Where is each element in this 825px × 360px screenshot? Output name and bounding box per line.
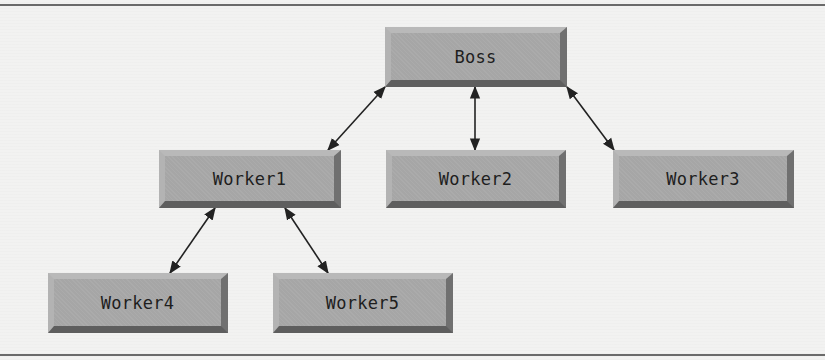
node-worker2: Worker2 bbox=[386, 150, 566, 208]
node-worker3: Worker3 bbox=[613, 150, 794, 208]
node-boss: Boss bbox=[385, 27, 567, 87]
node-worker5: Worker5 bbox=[273, 273, 453, 333]
node-label: Worker5 bbox=[326, 293, 400, 313]
node-label: Worker1 bbox=[213, 169, 287, 189]
node-label: Boss bbox=[454, 47, 496, 67]
node-worker1: Worker1 bbox=[159, 150, 341, 208]
node-worker4: Worker4 bbox=[48, 273, 228, 333]
node-label: Worker2 bbox=[439, 169, 513, 189]
top-rule bbox=[0, 4, 825, 6]
bottom-rule bbox=[0, 354, 825, 356]
node-label: Worker3 bbox=[666, 169, 740, 189]
node-label: Worker4 bbox=[101, 293, 175, 313]
